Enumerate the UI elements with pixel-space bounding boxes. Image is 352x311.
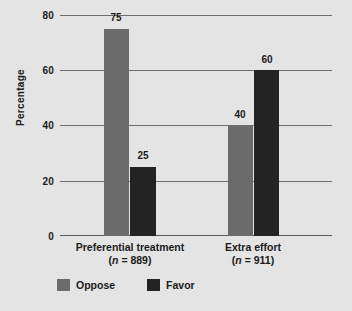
bar-preferential-oppose [104,29,129,236]
gridline-40 [60,125,332,126]
square-swatch-gray-icon [57,279,70,291]
legend-item-oppose: Oppose [57,279,115,291]
category-label-extra-effort: Extra effort (n = 911) [173,241,333,267]
legend-label-oppose: Oppose [76,279,115,291]
plot-area: 75 25 40 60 [60,15,332,236]
gridline-20 [60,181,332,182]
bar-value-preferential-favor: 25 [123,150,163,161]
category-label-extra-effort-n: (n = 911) [173,254,333,267]
legend-label-favor: Favor [166,279,195,291]
category-label-extra-effort-text: Extra effort [225,241,281,253]
bar-extra-effort-oppose [228,126,253,236]
y-tick-label-20: 20 [14,176,54,187]
bar-value-extra-effort-favor: 60 [247,54,287,65]
gridline-baseline-0 [60,235,332,236]
gridline-60 [60,70,332,71]
legend: Oppose Favor [57,279,217,291]
bar-chart: Percentage 80 60 40 20 0 75 25 40 60 Pre… [0,0,352,311]
bar-extra-effort-favor [254,70,279,236]
bar-value-preferential-oppose: 75 [96,12,136,23]
y-tick-label-60: 60 [14,65,54,76]
square-swatch-black-icon [147,279,160,291]
bar-preferential-favor [130,167,156,236]
y-tick-label-40: 40 [14,120,54,131]
y-axis-title: Percentage [15,38,26,158]
y-tick-label-80: 80 [14,10,54,21]
legend-item-favor: Favor [147,279,195,291]
category-label-preferential-text: Preferential treatment [76,241,185,253]
y-tick-label-0: 0 [14,231,54,242]
